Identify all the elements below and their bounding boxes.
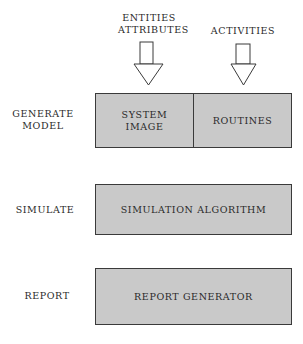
system-label: SYSTEM [122, 109, 168, 121]
generate-model-box: SYSTEM IMAGE ROUTINES [95, 93, 292, 148]
entities-label: ENTITIES [118, 12, 180, 24]
stage-label-report: REPORT [12, 290, 82, 302]
routines-block: ROUTINES [194, 94, 291, 147]
stage-label-generate-model: GENERATE MODEL [8, 108, 78, 132]
report-generator-box: REPORT GENERATOR [95, 268, 292, 325]
simulation-algorithm-label: SIMULATION ALGORITHM [121, 204, 267, 216]
report-generator-label: REPORT GENERATOR [134, 291, 253, 303]
model-label: MODEL [8, 120, 78, 132]
routines-label: ROUTINES [213, 115, 273, 127]
activities-label: ACTIVITIES [210, 25, 276, 37]
arrow-entities-attributes [134, 42, 163, 85]
system-image-block: SYSTEM IMAGE [96, 94, 193, 147]
entities-attributes-label: ENTITIES ATTRIBUTES [118, 12, 180, 36]
stage-label-simulate: SIMULATE [10, 204, 80, 216]
image-label: IMAGE [122, 121, 168, 133]
generate-label: GENERATE [8, 108, 78, 120]
attributes-label: ATTRIBUTES [118, 24, 180, 36]
simulation-algorithm-box: SIMULATION ALGORITHM [95, 184, 292, 235]
arrow-activities [231, 44, 256, 85]
